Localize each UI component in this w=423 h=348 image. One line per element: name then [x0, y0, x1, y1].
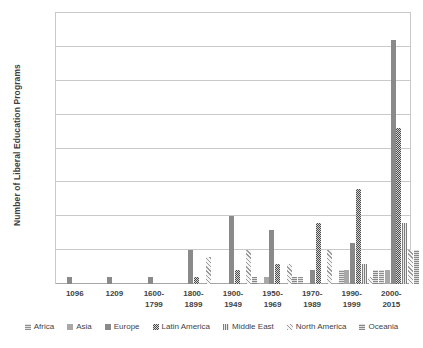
x-tick-label-line: 1949 [213, 300, 253, 311]
legend-item-oceania[interactable]: Oceania [359, 322, 398, 331]
bar-group [55, 13, 95, 284]
legend-swatch-icon [67, 324, 73, 330]
bar-europe [107, 277, 112, 284]
bar-oceania [252, 277, 257, 284]
bar-europe [188, 250, 193, 284]
bar-latin-america [275, 264, 280, 284]
bar-asia [344, 270, 349, 284]
x-tick-label-line: 1990- [332, 289, 372, 300]
y-axis-title: Number of Liberal Education Programs [12, 35, 22, 255]
legend-label: Africa [34, 322, 54, 331]
legend-label: Europe [114, 322, 140, 331]
bar-middle-east [362, 264, 367, 284]
bar-group [95, 13, 135, 284]
legend-item-north-america[interactable]: North America [287, 322, 347, 331]
bar-latin-america [194, 277, 199, 284]
bar-europe [350, 243, 355, 284]
bar-oceania [373, 270, 378, 284]
bar-europe [148, 277, 153, 284]
bar-europe [229, 216, 234, 284]
bar-north-america [368, 277, 373, 284]
bar-group [379, 13, 419, 284]
bar-oceania [414, 250, 419, 284]
legend-swatch-icon [359, 324, 365, 330]
bar-latin-america [396, 128, 401, 284]
x-tick-label-line: 1989 [292, 300, 332, 311]
legend-item-europe[interactable]: Europe [105, 322, 140, 331]
bar-group [217, 13, 257, 284]
legend-swatch-icon [287, 324, 293, 330]
legend-label: Oceania [368, 322, 398, 331]
legend-swatch-icon [25, 324, 31, 330]
bar-africa [379, 270, 384, 284]
legend-item-latin-america[interactable]: Latin America [153, 322, 210, 331]
legend-label: Latin America [162, 322, 210, 331]
bar-north-america [246, 250, 251, 284]
x-tick-label-line: 1800- [174, 289, 214, 300]
x-tick-label-line: 1969 [253, 300, 293, 311]
bar-north-america [327, 250, 332, 284]
bar-north-america [287, 264, 292, 284]
plot-area [55, 13, 411, 284]
x-tick-label-line: 1096 [55, 289, 95, 300]
bar-latin-america [316, 223, 321, 284]
bar-middle-east [402, 223, 407, 284]
bar-asia [264, 277, 269, 284]
x-tick-label-line: 1970- [292, 289, 332, 300]
x-tick-label: 1096 [55, 289, 95, 310]
bar-oceania [292, 277, 297, 284]
x-axis-labels: 109612091600-17991800-18991900-19491950-… [55, 289, 411, 310]
bar-asia [385, 270, 390, 284]
bar-group [176, 13, 216, 284]
x-tick-label-line: 1999 [332, 300, 372, 311]
x-tick-label: 1209 [95, 289, 135, 310]
x-tick-label-line: 2000- [372, 289, 412, 300]
chart-legend: AfricaAsiaEuropeLatin AmericaMiddle East… [0, 322, 423, 331]
legend-label: Middle East [232, 322, 274, 331]
x-tick-label-line: 1950- [253, 289, 293, 300]
bar-africa [339, 270, 344, 284]
bar-europe [269, 230, 274, 284]
legend-swatch-icon [153, 324, 159, 330]
bar-europe [67, 277, 72, 284]
legend-swatch-icon [223, 324, 229, 330]
bar-group [136, 13, 176, 284]
x-tick-label-line: 1600- [134, 289, 174, 300]
bar-north-america [206, 257, 211, 284]
x-tick-label: 1970-1989 [292, 289, 332, 310]
x-tick-label: 1800-1899 [174, 289, 214, 310]
bar-africa [298, 277, 303, 284]
legend-label: Asia [76, 322, 92, 331]
legend-label: North America [296, 322, 347, 331]
x-tick-label-line: 1209 [95, 289, 135, 300]
x-tick-label: 1600-1799 [134, 289, 174, 310]
bar-group [338, 13, 378, 284]
x-tick-label: 1990-1999 [332, 289, 372, 310]
legend-swatch-icon [105, 324, 111, 330]
x-tick-label-line: 1900- [213, 289, 253, 300]
x-tick-label: 1900-1949 [213, 289, 253, 310]
x-tick-label: 1950-1969 [253, 289, 293, 310]
bar-north-america [408, 250, 413, 284]
bar-europe [391, 40, 396, 284]
bar-europe [310, 270, 315, 284]
bar-latin-america [235, 270, 240, 284]
bar-group [257, 13, 297, 284]
x-tick-label: 2000-2015 [372, 289, 412, 310]
bar-chart: Number of Liberal Education Programs 051… [0, 0, 423, 348]
x-tick-label-line: 1899 [174, 300, 214, 311]
x-tick-label-line: 2015 [372, 300, 412, 311]
bar-groups [55, 13, 411, 284]
x-tick-label-line: 1799 [134, 300, 174, 311]
bar-group [298, 13, 338, 284]
legend-item-africa[interactable]: Africa [25, 322, 54, 331]
legend-item-middle-east[interactable]: Middle East [223, 322, 274, 331]
bar-latin-america [356, 189, 361, 284]
legend-item-asia[interactable]: Asia [67, 322, 92, 331]
